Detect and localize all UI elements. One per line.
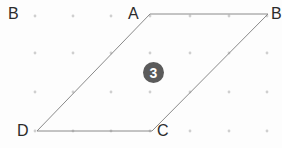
grid-dot — [228, 15, 231, 18]
grid-dot — [34, 91, 37, 94]
geometry-figure: A B C D B 3 — [0, 0, 282, 148]
corner-label-b: B — [8, 6, 19, 22]
grid-dot — [266, 91, 269, 94]
grid-dot — [266, 130, 269, 133]
grid-dot — [149, 52, 152, 55]
vertex-label-c: C — [157, 123, 169, 139]
grid-dot — [189, 130, 192, 133]
grid-dot — [34, 52, 37, 55]
grid-dot — [189, 15, 192, 18]
grid-dot — [266, 52, 269, 55]
grid-dot — [72, 52, 75, 55]
step-number-badge-value: 3 — [150, 64, 158, 80]
grid-dot — [72, 15, 75, 18]
vertex-label-b: B — [271, 6, 282, 22]
step-number-badge: 3 — [143, 62, 164, 83]
grid-dot — [110, 91, 113, 94]
figure-canvas — [0, 0, 282, 148]
grid-dot — [189, 52, 192, 55]
grid-dot — [149, 91, 152, 94]
grid-dot — [228, 130, 231, 133]
vertex-label-a: A — [128, 6, 139, 22]
grid-dot — [34, 15, 37, 18]
grid-dot — [34, 130, 37, 133]
grid-dot — [110, 15, 113, 18]
vertex-label-d: D — [17, 123, 29, 139]
grid-dot — [228, 91, 231, 94]
